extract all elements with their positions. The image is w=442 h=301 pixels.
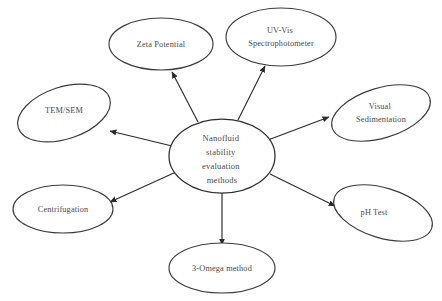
diagram-canvas: Nanofluid stability evaluation methods Z… [0, 0, 442, 301]
node-centrifugation[interactable]: Centrifugation [13, 185, 113, 233]
connector-to-ph-test [270, 174, 335, 206]
node-visual-sedimentation-shape [325, 74, 437, 152]
node-zeta-potential-label: Zeta Potential [137, 39, 186, 48]
node-ph-test-label: pH Test [361, 207, 388, 216]
node-three-omega[interactable]: 3-Omega method [169, 243, 275, 293]
node-visual-sedimentation[interactable] [325, 74, 437, 152]
node-zeta-potential[interactable]: Zeta Potential [109, 18, 213, 70]
connector-to-tem-sem [110, 131, 172, 146]
node-uv-vis[interactable]: UV-Vis Spectrophotometer [226, 8, 336, 66]
connector-to-visual-sedimentation [268, 117, 329, 140]
connector-to-centrifugation [110, 172, 176, 202]
node-three-omega-label: 3-Omega method [192, 263, 253, 272]
node-tem-sem-label: TEM/SEM [45, 106, 83, 115]
node-uv-vis-shape [226, 8, 336, 66]
node-centrifugation-label: Centrifugation [38, 204, 89, 213]
connector-to-zeta-potential [172, 72, 198, 122]
connector-to-uv-vis [238, 66, 265, 120]
center-node[interactable]: Nanofluid stability evaluation methods [169, 119, 275, 193]
diagram-svg: Nanofluid stability evaluation methods Z… [0, 0, 442, 301]
